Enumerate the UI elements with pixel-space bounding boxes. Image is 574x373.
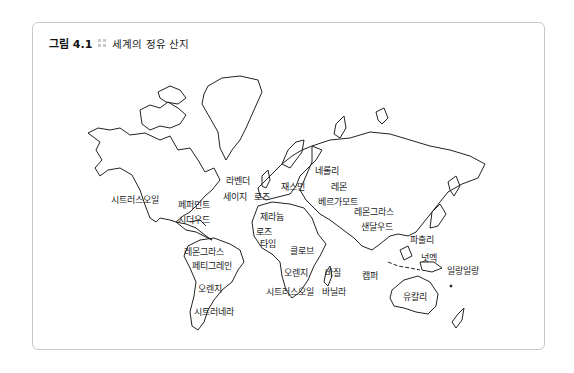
japan-outline	[430, 204, 446, 228]
new-zealand-outline	[452, 308, 464, 328]
british-isles-outline	[262, 170, 270, 188]
region-label: 타임	[260, 240, 276, 249]
region-label: 샌달우드	[361, 223, 393, 232]
region-label: 네롤리	[315, 167, 339, 176]
region-label: 시트러스오일	[111, 196, 159, 205]
region-label: 파출리	[410, 236, 434, 245]
region-label: 시더우드	[178, 216, 210, 225]
region-label: 바질	[325, 269, 341, 278]
region-label: 세이지	[223, 193, 247, 202]
region-label: 시트러네라	[194, 308, 234, 317]
greenland-outline	[202, 76, 262, 160]
indonesia-outline	[388, 262, 420, 270]
region-label: 시트러스오일	[266, 288, 314, 297]
region-label: 클로브	[290, 247, 314, 256]
region-label: 페퍼민트	[178, 201, 210, 210]
arctic-islands-outline	[140, 102, 186, 130]
region-label: 로즈	[256, 228, 272, 237]
region-label: 오렌지	[284, 269, 308, 278]
region-label: 레몬그라스	[354, 208, 394, 217]
novaya-zemlya-outline	[334, 116, 346, 138]
region-label: 레몬그라스	[184, 248, 224, 257]
region-label: 로즈	[254, 193, 270, 202]
region-label: 유칼리	[403, 293, 427, 302]
region-label: 페티그레인	[192, 262, 232, 271]
region-label: 베르가모트	[318, 198, 358, 207]
region-label: 캠퍼	[362, 272, 378, 281]
region-label: 재스민	[281, 183, 305, 192]
region-label: 넛멕	[421, 254, 437, 263]
region-label: 일랑일랑	[447, 267, 479, 276]
region-label: 레몬	[331, 183, 347, 192]
scandinavia-outline	[282, 140, 304, 168]
region-label: 제라늄	[260, 213, 284, 222]
region-label: 라벤더	[226, 177, 250, 186]
new-guinea-outline	[420, 262, 442, 272]
region-label: 바닐라	[322, 288, 346, 297]
region-label: 오렌지	[198, 285, 222, 294]
